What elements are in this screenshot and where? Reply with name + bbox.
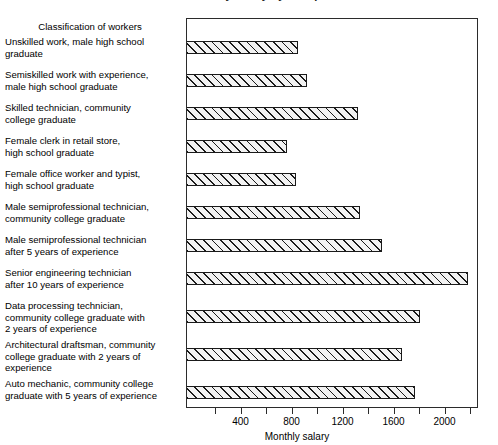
x-axis-tick	[368, 408, 369, 414]
category-label: Data processing technician, community co…	[5, 300, 183, 335]
x-axis-tick-label: 800	[283, 416, 300, 427]
bar-4	[186, 173, 296, 186]
x-axis-title: Monthly salary	[0, 431, 498, 442]
x-axis-tick	[266, 408, 267, 414]
x-axis-tick	[445, 408, 446, 414]
category-label: Male semiprofessional technician, commun…	[5, 201, 183, 224]
category-label-column: Classification of workers Unskilled work…	[0, 18, 184, 408]
category-label: Female office worker and typist, high sc…	[5, 168, 183, 191]
bar-3	[186, 140, 287, 153]
bar-10	[186, 386, 415, 399]
category-label: Skilled technician, community college gr…	[5, 102, 183, 125]
category-label: Male semiprofessional technician after 5…	[5, 234, 183, 257]
x-axis-tick	[292, 408, 293, 414]
bar-6	[186, 239, 382, 252]
category-label: Senior engineering technician after 10 y…	[5, 267, 183, 290]
bar-8	[186, 310, 420, 323]
x-axis-tick	[215, 408, 216, 414]
category-label: Auto mechanic, community college graduat…	[5, 378, 183, 401]
x-axis-tick	[241, 408, 242, 414]
bar-2	[186, 107, 358, 120]
x-axis-tick	[343, 408, 344, 414]
x-axis-tick-label: 400	[232, 416, 249, 427]
category-label: Architectural draftsman, community colle…	[5, 339, 183, 374]
x-axis-tick-label: 2000	[433, 416, 455, 427]
clipped-chart-title: Estimated monthly salary by occupation	[0, 0, 498, 14]
bar-1	[186, 74, 307, 87]
x-axis-tick	[419, 408, 420, 414]
bar-0	[186, 41, 298, 54]
x-axis-tick-label: 1200	[331, 416, 353, 427]
x-axis-title-text: Monthly salary	[265, 431, 329, 442]
x-axis-tick	[394, 408, 395, 414]
category-column-header: Classification of workers	[0, 21, 180, 33]
bar-9	[186, 348, 402, 361]
bar-chart: Estimated monthly salary by occupation C…	[0, 0, 498, 445]
category-label: Semiskilled work with experience, male h…	[5, 69, 183, 92]
plot-area	[186, 18, 478, 408]
x-axis-tick	[470, 408, 471, 414]
x-axis-tick	[317, 408, 318, 414]
x-axis-tick-label: 1600	[382, 416, 404, 427]
category-label: Female clerk in retail store, high schoo…	[5, 135, 183, 158]
chart-title-text: Estimated monthly salary by occupation	[130, 0, 349, 1]
bar-5	[186, 206, 360, 219]
bar-7	[186, 272, 468, 285]
category-label: Unskilled work, male high school graduat…	[5, 36, 183, 59]
